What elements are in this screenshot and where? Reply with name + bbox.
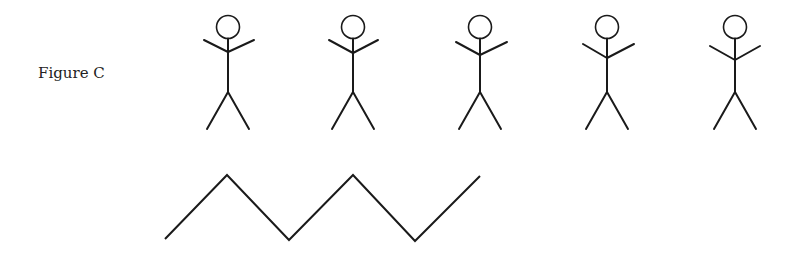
right-arm: [228, 40, 254, 52]
stick-figure: [583, 16, 634, 130]
head: [596, 16, 619, 39]
left-arm: [204, 40, 228, 52]
left-arm: [456, 42, 480, 55]
head: [217, 16, 240, 39]
head: [469, 16, 492, 39]
right-leg: [735, 92, 756, 129]
right-arm: [353, 40, 378, 53]
left-leg: [459, 92, 480, 129]
right-leg: [228, 92, 249, 129]
stick-figure: [204, 16, 254, 130]
left-arm: [710, 46, 735, 60]
right-leg: [607, 92, 628, 129]
left-arm: [329, 40, 353, 53]
right-arm: [480, 42, 507, 55]
stick-figure: [456, 16, 507, 130]
zigzag-line: [165, 175, 480, 241]
left-arm: [583, 44, 607, 58]
head: [724, 16, 747, 39]
right-arm: [735, 46, 760, 60]
right-leg: [353, 92, 374, 129]
stick-figure: [710, 16, 760, 130]
head: [342, 16, 365, 39]
stick-figures-group: [204, 16, 760, 130]
left-leg: [714, 92, 735, 129]
left-leg: [207, 92, 228, 129]
right-leg: [480, 92, 501, 129]
left-leg: [586, 92, 607, 129]
figure-canvas: [0, 0, 793, 255]
stick-figure: [329, 16, 378, 130]
left-leg: [332, 92, 353, 129]
right-arm: [607, 44, 634, 58]
